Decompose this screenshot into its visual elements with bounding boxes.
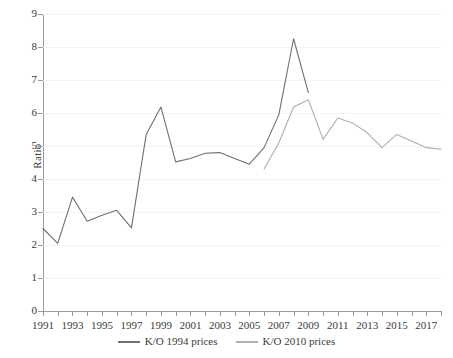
series-line [43, 39, 308, 244]
x-axis-tick [397, 311, 398, 316]
x-axis-tick [131, 311, 132, 316]
y-axis-label: 0 [17, 305, 37, 316]
x-axis-tick [367, 311, 368, 316]
legend-line-icon [118, 341, 140, 343]
x-axis-tick [117, 311, 118, 316]
x-axis-tick [72, 311, 73, 316]
x-axis-tick [58, 311, 59, 316]
y-axis-label: 1 [17, 272, 37, 283]
x-axis-tick [323, 311, 324, 316]
y-axis-label: 6 [17, 107, 37, 118]
legend-item[interactable]: K/O 2010 prices [236, 336, 336, 347]
series-lines [43, 14, 441, 311]
y-axis-label: 4 [17, 173, 37, 184]
y-axis-label: 7 [17, 74, 37, 85]
x-axis-tick [176, 311, 177, 316]
x-axis-tick [382, 311, 383, 316]
legend-item[interactable]: K/O 1994 prices [118, 336, 218, 347]
y-axis-label: 2 [17, 239, 37, 250]
x-axis-tick [235, 311, 236, 316]
y-axis-label: 5 [17, 140, 37, 151]
x-axis-tick [294, 311, 295, 316]
x-axis-tick [353, 311, 354, 316]
legend-line-icon [236, 341, 258, 343]
x-axis-tick [43, 311, 44, 316]
legend-label: K/O 1994 prices [145, 336, 218, 347]
line-chart: Ratio 0123456789 19911993199519971999200… [0, 0, 453, 358]
x-axis-tick [220, 311, 221, 316]
legend-label: K/O 2010 prices [263, 336, 336, 347]
x-axis-tick [161, 311, 162, 316]
y-axis-label: 3 [17, 206, 37, 217]
x-axis-tick [338, 311, 339, 316]
x-axis-tick [205, 311, 206, 316]
x-axis-tick [412, 311, 413, 316]
x-axis-tick [264, 311, 265, 316]
y-axis-label: 8 [17, 41, 37, 52]
x-axis-tick [190, 311, 191, 316]
x-axis-tick [441, 311, 442, 316]
x-axis-label: 2017 [406, 320, 446, 331]
y-axis-label: 9 [17, 8, 37, 19]
series-line [264, 100, 441, 169]
chart-legend: K/O 1994 pricesK/O 2010 prices [0, 336, 453, 347]
x-axis-tick [249, 311, 250, 316]
x-axis-tick [146, 311, 147, 316]
x-axis-tick [102, 311, 103, 316]
x-axis-tick [279, 311, 280, 316]
x-axis-tick [87, 311, 88, 316]
x-axis-tick [426, 311, 427, 316]
x-axis-tick [308, 311, 309, 316]
